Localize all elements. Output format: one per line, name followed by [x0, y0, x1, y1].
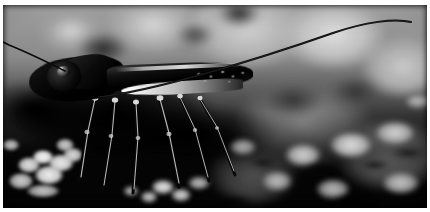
grayscale-overlay — [3, 5, 427, 208]
cricket-photograph — [3, 5, 427, 208]
photo-frame — [0, 0, 430, 212]
